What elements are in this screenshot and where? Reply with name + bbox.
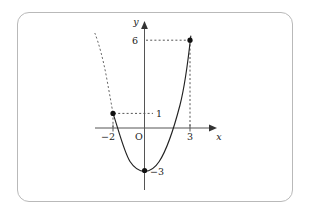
tick-label-1: 1 <box>156 108 162 119</box>
tick-label-3: 3 <box>187 131 193 142</box>
y-axis-label: y <box>132 16 139 27</box>
tick-label-neg2: −2 <box>101 131 115 142</box>
x-axis-label: x <box>216 131 222 142</box>
point-neg2-1 <box>110 111 115 116</box>
parabola-solid-branch <box>113 36 191 171</box>
figure-root: y x O −2 3 1 6 −3 <box>0 0 310 213</box>
graph-canvas: y x O −2 3 1 6 −3 <box>0 0 310 213</box>
parabola-dashed-branch <box>95 33 113 113</box>
tick-label-6: 6 <box>132 35 138 46</box>
y-axis-arrow-icon <box>141 21 148 29</box>
tick-label-neg3: −3 <box>150 166 164 177</box>
point-vertex <box>142 168 147 173</box>
point-3-6 <box>187 38 192 43</box>
origin-label: O <box>135 131 143 142</box>
